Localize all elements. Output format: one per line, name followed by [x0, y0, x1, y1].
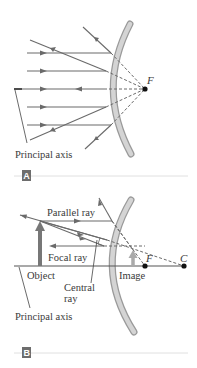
focal-ray-label: Focal ray [48, 252, 88, 263]
panel-b: F C Parallel ray Focal ray Object Image … [14, 198, 188, 358]
object-label: Object [27, 270, 55, 281]
panel-a: F Principal axis A [14, 24, 188, 181]
principal-axis-label-b: Principal axis [15, 311, 72, 322]
image-label: Image [119, 270, 146, 281]
center-point-c [181, 263, 186, 268]
virtual-rays-a [104, 53, 145, 125]
focal-point-b [142, 263, 147, 268]
principal-axis-label-a: Principal axis [15, 149, 72, 160]
svg-text:A: A [23, 171, 30, 181]
incident-rays-a [14, 53, 111, 125]
center-label-c: C [180, 252, 188, 264]
central-ray-label-2: ray [64, 293, 78, 304]
focal-label-a: F [146, 74, 154, 86]
parallel-ray-label: Parallel ray [47, 207, 96, 218]
svg-text:B: B [24, 348, 31, 358]
focal-label-b: F [145, 252, 153, 264]
focal-point-a [142, 86, 147, 91]
central-ray-label-1: Central [64, 282, 95, 293]
convex-mirror-figure: F Principal axis A [0, 0, 197, 368]
